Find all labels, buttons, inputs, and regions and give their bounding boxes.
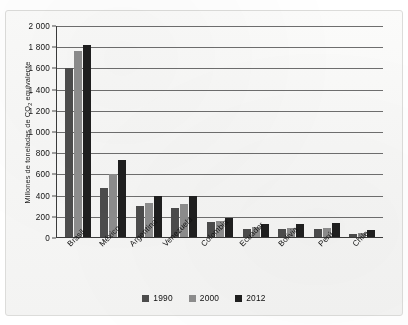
legend-item[interactable]: 1990 <box>142 293 172 303</box>
x-axis-tick-slot: Brasil <box>60 240 96 290</box>
y-axis-line <box>56 26 57 238</box>
bar <box>65 68 73 238</box>
x-axis-tick-slot: Ecuador <box>238 240 274 290</box>
y-axis-title-before: Millones de toneladas de CO <box>23 106 32 204</box>
plot-area: 02004006008001 0001 2001 4001 6001 8002 … <box>56 26 383 238</box>
legend-label: 2012 <box>246 293 265 303</box>
x-axis-tick-slot: Chile <box>345 240 381 290</box>
y-axis-tick-label: 1 400 <box>29 85 51 94</box>
x-axis-tick-slot: Argentina <box>131 240 167 290</box>
y-axis-tick-label: 0 <box>45 234 50 243</box>
y-axis-tick-label: 1 600 <box>29 64 51 73</box>
x-axis-tick-slot: México <box>96 240 132 290</box>
legend-swatch-icon <box>189 295 196 302</box>
legend-label: 1990 <box>153 293 172 303</box>
bar-group <box>131 26 167 238</box>
y-axis-tick-label: 400 <box>36 191 50 200</box>
y-axis-tick-label: 1 800 <box>29 43 51 52</box>
y-axis-tick-label: 200 <box>36 212 50 221</box>
legend-swatch-icon <box>142 295 149 302</box>
chart-legend: 199020002012 <box>0 293 408 303</box>
x-axis-tick-slot: Venezuela <box>167 240 203 290</box>
bar-group <box>238 26 274 238</box>
legend-swatch-icon <box>235 295 242 302</box>
bar-group <box>273 26 309 238</box>
bar-groups <box>56 26 383 238</box>
legend-item[interactable]: 2012 <box>235 293 265 303</box>
x-axis-tick-slot: Colombia <box>202 240 238 290</box>
bar-group <box>345 26 381 238</box>
legend-label: 2000 <box>200 293 219 303</box>
bar <box>154 196 162 238</box>
x-axis-tick-slot: Bolivia <box>273 240 309 290</box>
bar <box>118 160 126 238</box>
bar-group <box>60 26 96 238</box>
y-axis-tick-label: 600 <box>36 170 50 179</box>
y-axis-tick-label: 2 000 <box>29 22 51 31</box>
chart-figure: Millones de toneladas de CO2 equivalente… <box>0 0 408 325</box>
bar <box>74 51 82 238</box>
bar-group <box>167 26 203 238</box>
y-axis-tick-label: 1 200 <box>29 106 51 115</box>
legend-item[interactable]: 2000 <box>189 293 219 303</box>
bar-group <box>96 26 132 238</box>
bar <box>83 45 91 238</box>
bar-group <box>202 26 238 238</box>
x-axis-tick-slot: Perú <box>309 240 345 290</box>
y-axis-tick-label: 1 000 <box>29 128 51 137</box>
y-axis-tick-label: 800 <box>36 149 50 158</box>
bar-group <box>309 26 345 238</box>
x-axis-tick-labels: BrasilMéxicoArgentinaVenezuelaColombiaEc… <box>56 240 383 290</box>
